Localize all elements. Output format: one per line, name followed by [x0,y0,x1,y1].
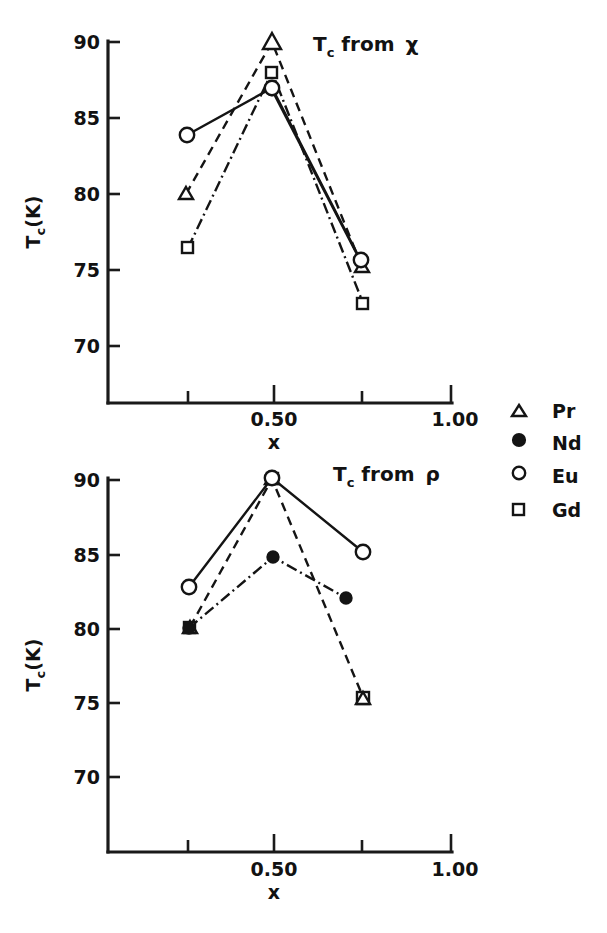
marker-filled-circle-icon [340,592,351,603]
filled-circle-icon [513,434,525,446]
legend: Pr Nd Eu Gd [512,400,582,521]
top-ylabel-sub: c [33,228,48,236]
top-ylabel-main: T [22,235,44,248]
marker-open-triangle-icon [263,33,281,49]
top-ytick-label-85: 85 [74,107,100,129]
legend-item-gd[interactable]: Gd [513,499,581,521]
bottom-title-sub: c [347,475,355,490]
marker-open-circle-icon [356,545,370,559]
top-series-line-eu [187,88,361,261]
legend-label-eu: Eu [552,465,579,487]
bottom-y-ticks [108,480,120,777]
marker-filled-circle-icon [183,622,194,633]
top-panel-title: Tc from χ [313,32,418,60]
bottom-series-line-pr [190,479,363,697]
bottom-title-main: T [333,462,347,486]
top-ytick-label-90: 90 [74,31,100,53]
bottom-series-line-eu [189,478,363,587]
bottom-title-rest: from [354,462,421,486]
bottom-ytick-label-70: 70 [74,766,100,788]
bottom-title-symbol: ρ [425,462,439,486]
marker-open-square-icon [357,298,368,309]
open-square-icon [513,504,524,515]
marker-filled-circle-icon [267,551,278,562]
top-markers-gd [182,67,368,309]
marker-open-square-icon [182,242,193,253]
marker-open-circle-icon [354,253,368,267]
marker-open-square-icon [266,67,277,78]
bottom-ylabel-sub: c [33,671,48,679]
legend-label-gd: Gd [552,499,581,521]
marker-open-circle-icon [265,471,279,485]
top-title-rest: from [334,32,401,56]
legend-label-pr: Pr [552,400,576,422]
top-title-main: T [313,32,327,56]
top-title-sub: c [327,45,335,60]
bottom-x-axis-label: x [268,881,280,903]
top-xtick-label-100: 1.00 [432,408,479,430]
marker-open-circle-icon [182,580,196,594]
top-xtick-label-050: 0.50 [251,408,298,430]
open-triangle-icon [512,405,526,416]
bottom-x-ticks [188,834,451,852]
top-x-ticks [188,385,451,403]
marker-open-triangle-icon [179,187,193,199]
top-ytick-label-70: 70 [74,335,100,357]
top-series-line-nd [272,90,361,262]
figure-svg: 90 85 80 75 70 0.50 1.00 x Tc(K) Tc from… [0,0,607,933]
svg-text:Tc from ρ: Tc from ρ [333,462,440,490]
svg-text:Tc from χ: Tc from χ [313,32,418,60]
legend-item-pr[interactable]: Pr [512,400,576,422]
bottom-series-line-nd [189,557,346,628]
marker-open-circle-icon [265,81,279,95]
top-series-line-gd [188,72,363,303]
bottom-markers-gd [184,473,369,704]
bottom-y-axis-label: Tc(K) [22,639,48,692]
top-ylabel-unit: (K) [22,196,44,228]
open-circle-icon [513,467,525,479]
legend-label-nd: Nd [552,432,582,454]
bottom-xtick-label-100: 1.00 [432,858,479,880]
bottom-ytick-label-75: 75 [74,692,100,714]
bottom-markers-pr [183,472,370,704]
bottom-ylabel-unit: (K) [22,639,44,671]
figure-canvas: 90 85 80 75 70 0.50 1.00 x Tc(K) Tc from… [0,0,607,933]
svg-text:Tc(K): Tc(K) [22,196,48,249]
bottom-ylabel-main: T [22,678,44,691]
bottom-ytick-label-80: 80 [74,618,100,640]
panel-bottom: 90 85 80 75 70 0.50 1.00 x Tc(K) Tc from… [22,462,478,903]
top-title-symbol: χ [405,32,418,56]
top-y-axis-label: Tc(K) [22,196,48,249]
top-y-ticks [108,42,120,346]
top-x-axis-label: x [268,431,280,453]
legend-item-nd[interactable]: Nd [513,432,582,454]
bottom-ytick-label-90: 90 [74,469,100,491]
top-ytick-label-75: 75 [74,259,100,281]
bottom-xtick-label-050: 0.50 [251,858,298,880]
bottom-panel-title: Tc from ρ [333,462,440,490]
bottom-markers-nd [183,551,351,633]
bottom-ytick-label-85: 85 [74,544,100,566]
marker-open-circle-icon [180,128,194,142]
legend-item-eu[interactable]: Eu [513,465,579,487]
top-markers-eu [180,81,368,267]
top-ytick-label-80: 80 [74,183,100,205]
svg-text:Tc(K): Tc(K) [22,639,48,692]
panel-top: 90 85 80 75 70 0.50 1.00 x Tc(K) Tc from… [22,31,478,453]
